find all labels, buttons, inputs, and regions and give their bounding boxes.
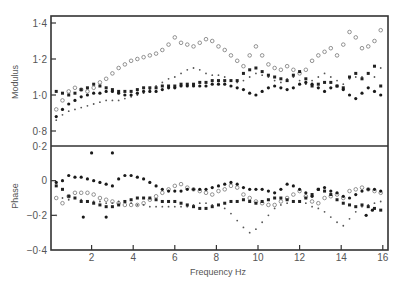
modulus-point [317, 83, 320, 86]
phase-point [167, 200, 170, 203]
modulus-point [341, 43, 345, 47]
phase-point [304, 191, 307, 194]
modulus-point [267, 63, 271, 67]
phase-point [236, 200, 239, 203]
phase-point [317, 208, 319, 210]
phase-point [360, 189, 363, 192]
phase-point [155, 206, 157, 208]
phase-point [79, 191, 83, 195]
modulus-point [311, 80, 313, 82]
phase-point [354, 205, 357, 208]
modulus-point [348, 30, 352, 34]
phase-point [371, 209, 374, 212]
phase-point [248, 196, 252, 200]
phase-point [105, 202, 107, 204]
phase-point [186, 188, 189, 191]
modulus-point [342, 83, 344, 85]
phase-point [161, 206, 163, 208]
modulus-point [86, 93, 89, 96]
modulus-point [118, 100, 120, 102]
phase-point [111, 184, 114, 187]
phase-point [379, 209, 382, 212]
phase-point [286, 198, 289, 201]
phase-point [92, 179, 95, 182]
phase-point [305, 202, 307, 204]
phase-point [92, 202, 95, 205]
phase-point [80, 176, 83, 179]
modulus-point [80, 107, 82, 109]
modulus-point [366, 45, 370, 49]
modulus-point [105, 86, 108, 89]
phase-point [329, 189, 332, 192]
modulus-point [161, 82, 163, 84]
phase-point [317, 201, 321, 205]
phase-point [273, 197, 276, 200]
phase-point [98, 181, 101, 184]
phase-point [117, 177, 120, 180]
modulus-point [142, 55, 146, 59]
phase-point [236, 220, 238, 222]
modulus-point [68, 110, 70, 112]
modulus-point [254, 45, 258, 49]
modulus-point [112, 100, 114, 102]
phase-point [55, 184, 58, 187]
phase-point [348, 189, 352, 193]
phase-point [73, 191, 77, 195]
phase-point [192, 205, 195, 208]
phase-point [254, 188, 257, 191]
modulus-point [336, 80, 338, 82]
phase-point [86, 177, 89, 180]
modulus-point [342, 88, 345, 91]
upper-y-axis: 0·81·01·21·4 Modulus [10, 18, 56, 137]
phase-point [367, 188, 370, 191]
phase-point [80, 200, 83, 203]
phase-series-filled-squares [55, 184, 382, 211]
x-tick-label: 8 [214, 252, 220, 263]
phase-point [142, 177, 145, 180]
modulus-point [242, 88, 245, 91]
phase-series-small-dots [55, 197, 381, 233]
x-tick-label: 16 [377, 252, 389, 263]
phase-point [123, 174, 126, 177]
modulus-point [299, 80, 301, 82]
modulus-point [117, 92, 120, 95]
modulus-point [248, 68, 251, 71]
modulus-point [98, 92, 101, 95]
modulus-point [80, 88, 83, 91]
phase-point [217, 184, 220, 187]
phase-point [105, 205, 108, 208]
modulus-point [142, 86, 145, 89]
phase-point [354, 193, 357, 196]
modulus-point [167, 43, 171, 47]
phase-point [98, 203, 101, 206]
modulus-point [87, 105, 89, 107]
phase-point [323, 190, 326, 193]
modulus-point [229, 84, 232, 87]
modulus-point [223, 79, 226, 82]
phase-point [279, 197, 282, 200]
modulus-point [249, 76, 251, 78]
modulus-point [229, 54, 233, 58]
modulus-point [61, 92, 64, 95]
phase-point [217, 189, 221, 193]
phase-point [148, 197, 151, 200]
phase-point [148, 181, 151, 184]
phase-point [292, 200, 295, 203]
modulus-point [61, 108, 64, 111]
phase-point [67, 195, 70, 198]
phase-point [348, 203, 351, 206]
modulus-point [211, 79, 214, 82]
phase-point [242, 193, 246, 197]
modulus-point [348, 76, 351, 79]
phase-point [123, 200, 126, 203]
upper-panel-marks [54, 28, 382, 121]
modulus-point [136, 92, 139, 95]
phase-point [167, 189, 170, 192]
phase-point [242, 186, 245, 189]
phase-point [111, 151, 114, 154]
phase-point [223, 188, 227, 192]
modulus-point [198, 41, 202, 45]
phase-point [248, 200, 251, 203]
modulus-point [180, 73, 182, 75]
modulus-point [310, 59, 314, 63]
